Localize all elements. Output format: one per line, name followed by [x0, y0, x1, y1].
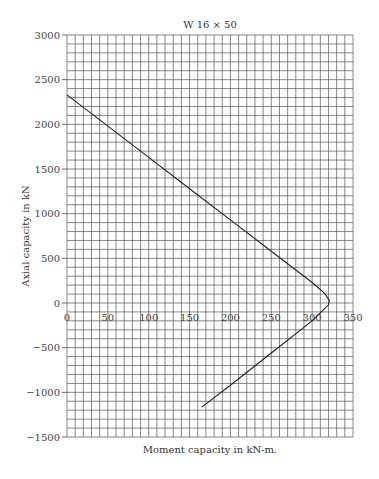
y-tick-label: 3000: [35, 30, 60, 41]
y-tick-label: 2500: [35, 74, 60, 85]
interaction-curve: [67, 95, 329, 407]
y-axis-label: Axial capacity in kN: [20, 185, 31, 288]
y-tick-label: −1000: [26, 387, 60, 398]
x-axis-label: Moment capacity in kN-m.: [143, 444, 278, 455]
y-tick-label: 1000: [35, 208, 60, 219]
grid: [67, 35, 353, 437]
chart-title: W 16 × 50: [183, 19, 237, 30]
x-tick-label: 250: [262, 312, 281, 323]
y-tick-label: 500: [41, 253, 60, 264]
interaction-chart: W 16 × 50 300025002000150010005000−500−1…: [0, 0, 379, 479]
x-tick-label: 0: [64, 312, 70, 323]
y-tick-label: 1500: [35, 164, 60, 175]
y-tick-label: 2000: [35, 119, 60, 130]
y-tick-label: −1500: [26, 432, 60, 443]
x-tick-label: 50: [101, 312, 114, 323]
x-tick-label: 150: [180, 312, 199, 323]
x-tick-label: 200: [221, 312, 240, 323]
x-axis-ticks: 050100150200250300350: [64, 312, 363, 323]
y-tick-label: 0: [54, 298, 60, 309]
y-axis-ticks: 300025002000150010005000−500−1000−1500: [26, 30, 67, 443]
y-tick-label: −500: [33, 342, 60, 353]
x-tick-label: 350: [343, 312, 362, 323]
x-tick-label: 100: [139, 312, 158, 323]
